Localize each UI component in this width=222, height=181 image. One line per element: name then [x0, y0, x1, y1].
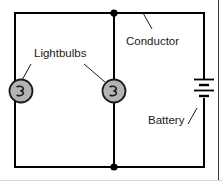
label-battery: Battery	[148, 114, 185, 126]
leader-line-conductor	[143, 13, 152, 29]
leader-line-lightbulb-left	[22, 64, 31, 80]
label-conductor: Conductor	[126, 35, 179, 47]
label-lightbulbs: Lightbulbs	[34, 47, 87, 59]
leader-line-battery	[188, 108, 197, 124]
junction-dot-bottom	[110, 163, 117, 170]
lightbulb-right	[103, 80, 126, 103]
circuit-diagram: Lightbulbs Conductor Battery	[0, 0, 222, 181]
junction-dot-top	[110, 9, 117, 16]
label-leader-lines	[22, 13, 197, 124]
battery-symbol	[194, 80, 214, 97]
leader-line-lightbulb-right	[84, 64, 105, 82]
lightbulb-left	[10, 80, 33, 103]
circuit-schematic-canvas: Lightbulbs Conductor Battery	[0, 0, 222, 181]
